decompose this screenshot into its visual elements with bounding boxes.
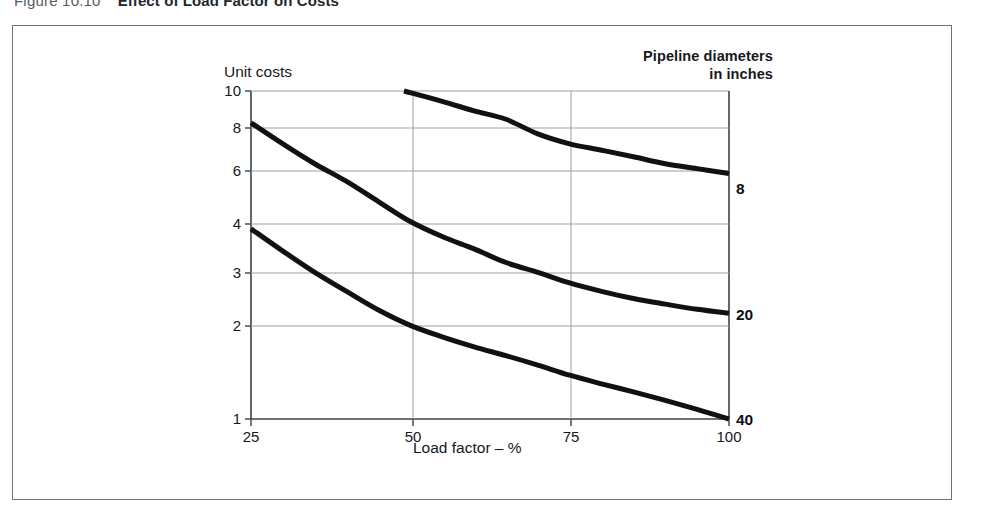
figure-title: Effect of Load Factor on Costs xyxy=(118,0,339,9)
curve-20-inch xyxy=(251,123,729,314)
legend: Pipeline diameters in inches xyxy=(643,48,773,83)
x-tick-label-100: 100 xyxy=(704,429,754,445)
x-axis-ticks xyxy=(251,419,729,426)
figure-number: Figure 10.10 xyxy=(14,0,101,9)
y-tick-label-8: 8 xyxy=(209,120,241,136)
legend-line-1: Pipeline diameters xyxy=(643,48,773,66)
legend-line-2: in inches xyxy=(643,66,773,84)
series-label-20: 20 xyxy=(736,306,753,324)
curve-8-inch xyxy=(404,91,729,174)
y-axis-title: Unit costs xyxy=(224,64,292,80)
y-tick-label-3: 3 xyxy=(209,265,241,281)
line-chart-graphic xyxy=(13,26,953,501)
y-tick-label-10: 10 xyxy=(209,83,241,99)
y-axis-ticks xyxy=(245,91,251,419)
data-curves xyxy=(251,91,729,419)
x-tick-label-75: 75 xyxy=(546,429,596,445)
x-axis-title: Load factor – % xyxy=(413,440,522,456)
figure-panel: 10 8 6 4 3 2 1 25 50 75 100 Unit costs L… xyxy=(12,25,952,500)
series-label-40: 40 xyxy=(736,411,753,429)
figure-caption: Figure 10.10Effect of Load Factor on Cos… xyxy=(14,0,339,11)
chart-area: 10 8 6 4 3 2 1 25 50 75 100 Unit costs L… xyxy=(13,26,953,501)
y-tick-label-6: 6 xyxy=(209,163,241,179)
y-tick-label-2: 2 xyxy=(209,318,241,334)
horizontal-gridlines xyxy=(251,128,729,326)
series-label-8: 8 xyxy=(736,180,745,198)
y-tick-label-1: 1 xyxy=(209,411,241,427)
y-tick-label-4: 4 xyxy=(209,216,241,232)
x-tick-label-25: 25 xyxy=(226,429,276,445)
